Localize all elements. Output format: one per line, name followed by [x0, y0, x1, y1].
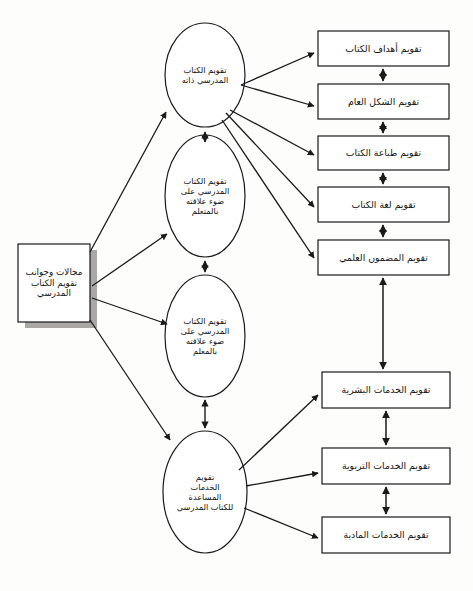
diagram-canvas: مجالات وجوانب تقويم الكتاب المدرسي تقويم…	[0, 0, 473, 591]
ellipse-relation-learner[interactable]	[165, 135, 245, 257]
ellipse4-to-bottom-boxes-arrows	[239, 395, 318, 538]
source-to-ellipse-arrows	[90, 112, 170, 440]
box-printing[interactable]	[318, 136, 449, 170]
box-general-form[interactable]	[318, 84, 449, 119]
ellipse-relation-teacher[interactable]	[165, 275, 245, 397]
box-objectives[interactable]	[318, 31, 449, 66]
source-node[interactable]	[18, 244, 90, 322]
box-educational-services[interactable]	[322, 448, 450, 484]
box-language[interactable]	[318, 187, 449, 222]
box-material-services[interactable]	[322, 517, 450, 553]
ellipse-support-services[interactable]	[163, 431, 247, 553]
ellipse-book-itself[interactable]	[165, 23, 245, 127]
box-human-services[interactable]	[322, 372, 450, 408]
box-scientific-content[interactable]	[318, 240, 449, 275]
